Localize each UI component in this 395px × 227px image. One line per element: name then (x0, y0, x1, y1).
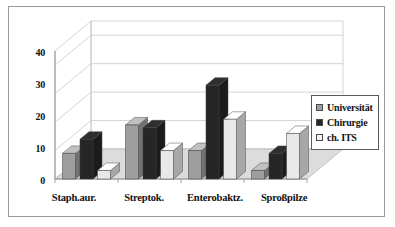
bar-spropilze-chirurgie-front (269, 153, 282, 179)
legend-label-ch-its: ch. ITS (327, 132, 357, 143)
bar-streptok-universitt-front (126, 125, 139, 179)
legend-swatch-ch-its (316, 134, 323, 141)
legend-item-universitaet: Universität (316, 100, 373, 115)
y-axis-tick-10: 10 (23, 143, 45, 154)
bar-enterobaktz-chits-side (237, 112, 246, 179)
bar-staphaur-chits-front (98, 170, 111, 179)
bar-spropilze-universitt-front (252, 170, 265, 179)
y-axis-tick-0: 0 (23, 175, 45, 186)
chart-frame: 40 30 20 10 0 Staph.aur. Streptok. Enter… (8, 6, 385, 217)
bar-enterobaktz-universitt-front (189, 151, 202, 179)
bar-spropilze-chits-front (287, 133, 300, 179)
bar-enterobaktz-chits-front (224, 119, 237, 179)
y-axis-tick-40: 40 (23, 47, 45, 58)
legend-item-ch-its: ch. ITS (316, 130, 373, 145)
legend-label-universitaet: Universität (327, 102, 373, 113)
legend-label-chirurgie: Chirurgie (327, 117, 367, 128)
bar-spropilze-chits-side (300, 126, 309, 179)
y-axis-tick-20: 20 (23, 111, 45, 122)
x-axis-label-staph-aur: Staph.aur. (35, 192, 113, 203)
bar-enterobaktz-chirurgie-front (206, 85, 219, 179)
legend-item-chirurgie: Chirurgie (316, 115, 373, 130)
legend-swatch-chirurgie (316, 119, 323, 126)
bar-streptok-chits-front (161, 151, 174, 179)
x-axis-label-sprosspilze: Sproßpilze (243, 192, 325, 203)
bar-staphaur-chirurgie-front (80, 139, 93, 179)
chart-legend: Universität Chirurgie ch. ITS (311, 95, 379, 150)
legend-swatch-universitaet (316, 104, 323, 111)
bar-streptok-chirurgie-front (143, 128, 156, 179)
y-axis-tick-30: 30 (23, 79, 45, 90)
bar-staphaur-universitt-front (63, 153, 76, 179)
